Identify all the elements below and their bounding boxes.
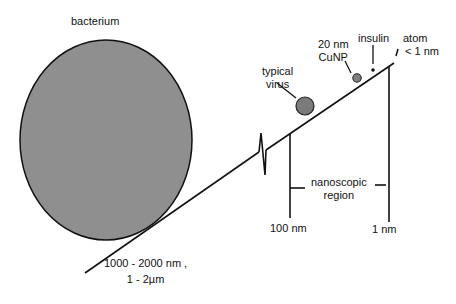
size-scale-diagram (0, 0, 456, 304)
marker-100nm-label: 100 nm (270, 222, 307, 235)
bacterium-size-line2: 1 - 2µm (104, 273, 187, 286)
virus-label: typical virus (262, 65, 293, 91)
nanoscopic-label-line2: region (311, 189, 367, 202)
nanoscopic-region-label: nanoscopic region (311, 176, 367, 202)
atom-pointer (396, 49, 398, 56)
virus-label-line2: virus (262, 78, 293, 91)
virus-label-line1: typical (262, 65, 293, 78)
virus-shape (296, 97, 314, 115)
bacterium-size-label: 1000 - 2000 nm , 1 - 2µm (104, 257, 187, 286)
insulin-label: insulin (358, 32, 389, 45)
cunp-label: 20 nm CuNP (318, 38, 349, 64)
bacterium-size-line1: 1000 - 2000 nm , (104, 257, 187, 270)
marker-1nm-label: 1 nm (372, 223, 396, 236)
insulin-dot (371, 68, 375, 72)
bacterium-label: bacterium (71, 15, 119, 28)
cunp-shape (353, 74, 361, 82)
atom-label: atom < 1 nm (400, 32, 439, 58)
cunp-label-line1: 20 nm (318, 38, 349, 51)
atom-label-line1: atom (400, 32, 439, 45)
cunp-label-line2: CuNP (318, 51, 349, 64)
bacterium-shape (20, 40, 192, 240)
atom-label-line2: < 1 nm (405, 45, 439, 58)
scale-break-mark (259, 133, 266, 175)
nanoscopic-label-line1: nanoscopic (311, 176, 367, 189)
